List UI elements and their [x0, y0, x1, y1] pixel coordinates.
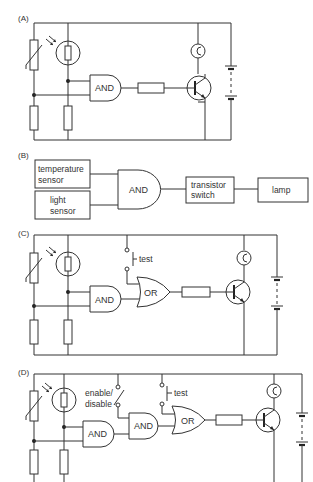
enable-disable-label: disable — [85, 399, 112, 409]
transistor-switch-label: switch — [191, 190, 215, 200]
section-b: (B) temperature sensor light sensor AND … — [18, 151, 308, 219]
lamp-icon — [191, 44, 205, 58]
section-d: (D) AND enable/ disable AND test — [18, 368, 308, 482]
lamp-icon — [237, 251, 251, 265]
section-c-label: (C) — [18, 229, 29, 238]
and-gate-label: AND — [129, 185, 149, 195]
resistor-icon — [30, 106, 38, 130]
transistor-icon — [226, 278, 250, 306]
test-switch-contact — [160, 402, 164, 406]
section-d-label: (D) — [18, 368, 29, 377]
resistor-icon — [30, 320, 38, 344]
section-b-label: (B) — [18, 151, 29, 160]
battery-icon — [225, 96, 237, 99]
transistor-switch-label: transistor — [191, 180, 226, 190]
light-dependent-resistor-icon — [46, 36, 80, 65]
enable-switch-contact — [116, 385, 120, 389]
section-c: (C) AND test OR — [18, 229, 283, 355]
enable-disable-label: enable/ — [85, 388, 114, 398]
battery-icon — [296, 442, 308, 445]
battery-icon — [225, 66, 237, 69]
circuit-diagrams: (A) AND (B) temperature — [0, 0, 313, 482]
lamp-label: lamp — [272, 185, 291, 195]
section-a-label: (A) — [18, 14, 29, 23]
or-gate-label: OR — [144, 288, 158, 298]
light-dependent-resistor-icon — [42, 383, 76, 412]
battery-icon — [296, 413, 308, 416]
temperature-sensor-label: temperature — [38, 164, 84, 174]
transistor-icon — [256, 406, 280, 434]
section-a: (A) AND — [18, 14, 237, 140]
battery-icon — [271, 277, 283, 280]
resistor-icon — [182, 287, 210, 297]
test-switch-contact — [125, 267, 129, 271]
resistor-icon — [64, 320, 72, 344]
and-gate-1-label: AND — [88, 429, 108, 439]
test-switch-contact — [125, 248, 129, 252]
and-gate-2-label: AND — [134, 421, 154, 431]
thermistor-icon — [26, 253, 42, 283]
temperature-sensor-label: sensor — [38, 175, 64, 185]
test-switch-label: test — [139, 254, 153, 264]
and-gate-label: AND — [95, 295, 115, 305]
light-sensor-label: light — [50, 195, 66, 205]
resistor-icon — [64, 106, 72, 130]
thermistor-icon — [26, 391, 42, 421]
and-gate-label: AND — [95, 83, 115, 93]
enable-switch-contact — [116, 403, 120, 407]
test-switch-contact — [160, 383, 164, 387]
resistor-icon — [138, 83, 164, 93]
lamp-icon — [267, 384, 281, 398]
thermistor-icon — [26, 40, 42, 70]
transistor-icon — [187, 74, 211, 102]
light-dependent-resistor-icon — [46, 247, 80, 276]
resistor-icon — [216, 415, 242, 425]
or-gate-label: OR — [181, 416, 195, 426]
test-switch-label: test — [174, 388, 188, 398]
battery-icon — [271, 306, 283, 309]
resistor-icon — [30, 450, 38, 474]
light-sensor-label: sensor — [50, 206, 76, 216]
resistor-icon — [60, 450, 68, 474]
